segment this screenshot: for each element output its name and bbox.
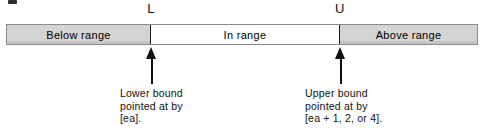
callout-line: pointed at by (305, 100, 382, 113)
upper-bound-arrow-up-icon (335, 47, 346, 84)
callout-line: Upper bound (305, 87, 382, 100)
upper-bound-callout: Upper bound pointed at by [ea + 1, 2, or… (305, 87, 382, 125)
arrow-shaft (340, 54, 342, 84)
segment-in-range: In range (150, 25, 340, 44)
callout-line: pointed at by (120, 100, 183, 113)
arrow-shaft (151, 54, 153, 84)
lower-bound-arrow-up-icon (146, 47, 157, 84)
range-diagram-figure: L U Below range In range Above range Low… (0, 0, 494, 134)
upper-bound-letter: U (330, 1, 350, 17)
range-bar: Below range In range Above range (6, 24, 478, 45)
segment-below-range: Below range (7, 25, 150, 44)
callout-line: Lower bound (120, 87, 183, 100)
callout-line: [ea + 1, 2, or 4]. (305, 112, 382, 125)
ink-artifact (8, 0, 17, 4)
lower-bound-letter: L (141, 1, 161, 17)
segment-above-range: Above range (340, 25, 477, 44)
callout-line: [ea]. (120, 112, 183, 125)
lower-bound-callout: Lower bound pointed at by [ea]. (120, 87, 183, 125)
